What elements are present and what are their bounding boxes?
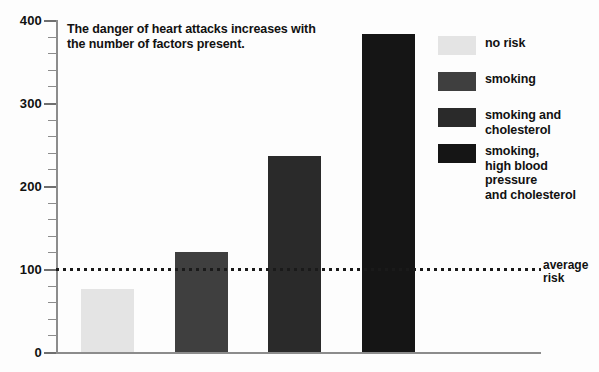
y-tick-minor-320 [48, 86, 56, 87]
y-tick-minor-380 [48, 37, 56, 38]
legend-item-1[interactable]: no risk [438, 36, 525, 55]
y-tick-minor-360 [48, 53, 56, 54]
y-tick-minor-260 [48, 136, 56, 137]
x-axis-line [56, 352, 541, 354]
y-tick-label-0-wrap: 0 [0, 345, 42, 359]
legend-item-4[interactable]: smoking, high blood pressure and cholest… [438, 144, 598, 202]
average-risk-label: averagerisk [543, 259, 588, 285]
legend-swatch-1 [438, 36, 476, 55]
y-axis-line [56, 20, 58, 353]
chart-title: The danger of heart attacks increases wi… [67, 22, 317, 52]
y-tick-major-200 [44, 186, 56, 188]
y-tick-minor-180 [48, 203, 56, 204]
y-tick-label-0: 0 [2, 345, 42, 360]
y-tick-minor-340 [48, 70, 56, 71]
legend-item-2[interactable]: smoking [438, 72, 536, 91]
y-tick-label-300-wrap: 300 [0, 96, 42, 110]
y-tick-minor-220 [48, 169, 56, 170]
chart-figure: 400 300 200 100 0 averagerisk The danger… [0, 0, 599, 372]
y-tick-label-400-wrap: 400 [0, 13, 42, 27]
average-risk-label-line: risk [543, 272, 588, 285]
y-tick-minor-20 [48, 335, 56, 336]
legend-label-2: smoking [485, 72, 536, 87]
y-tick-minor-280 [48, 120, 56, 121]
y-tick-minor-80 [48, 286, 56, 287]
legend-label-3: smoking and cholesterol [485, 108, 561, 137]
y-tick-label-300: 300 [2, 96, 42, 111]
legend-label-4: smoking, high blood pressure and cholest… [485, 144, 598, 202]
bar-1 [81, 289, 134, 352]
y-tick-minor-240 [48, 153, 56, 154]
y-tick-minor-60 [48, 302, 56, 303]
y-tick-label-400: 400 [2, 13, 42, 28]
y-tick-label-100: 100 [2, 262, 42, 277]
y-tick-minor-120 [48, 252, 56, 253]
legend-swatch-3 [438, 108, 476, 127]
y-tick-major-0 [44, 352, 56, 354]
y-tick-label-200: 200 [2, 179, 42, 194]
y-tick-label-200-wrap: 200 [0, 179, 42, 193]
bar-3 [268, 156, 321, 352]
y-tick-major-300 [44, 103, 56, 105]
legend-swatch-4 [438, 144, 476, 163]
y-tick-minor-160 [48, 219, 56, 220]
bar-4 [362, 34, 415, 352]
y-tick-minor-40 [48, 319, 56, 320]
average-risk-line [56, 268, 541, 271]
y-tick-major-100 [44, 269, 56, 271]
y-tick-major-400 [44, 20, 56, 22]
legend-swatch-2 [438, 72, 476, 91]
y-tick-minor-140 [48, 236, 56, 237]
legend-label-1: no risk [485, 36, 525, 51]
legend-item-3[interactable]: smoking and cholesterol [438, 108, 561, 137]
y-tick-label-100-wrap: 100 [0, 262, 42, 276]
